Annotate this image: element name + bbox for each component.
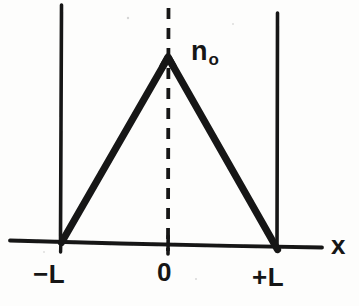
right-boundary-line (277, 13, 278, 251)
apex-label-base: n (191, 36, 208, 66)
scan-speckle (195, 278, 197, 280)
figure-canvas: no x −L 0 +L (0, 0, 359, 306)
profile-left-leg (62, 59, 168, 243)
x-tick-label-minus-L: −L (33, 261, 65, 287)
left-boundary-line (61, 5, 62, 243)
scan-speckle (232, 23, 234, 25)
apex-amplitude-label: no (191, 38, 219, 68)
x-axis-label: x (331, 232, 345, 258)
profile-right-leg (169, 58, 278, 250)
x-tick-label-zero: 0 (157, 259, 171, 285)
apex-label-subscript: o (209, 50, 219, 69)
x-tick-label-plus-L: +L (252, 264, 284, 290)
scan-speckle (127, 17, 129, 19)
center-dashed-line (168, 8, 169, 251)
scan-speckle (43, 251, 45, 253)
